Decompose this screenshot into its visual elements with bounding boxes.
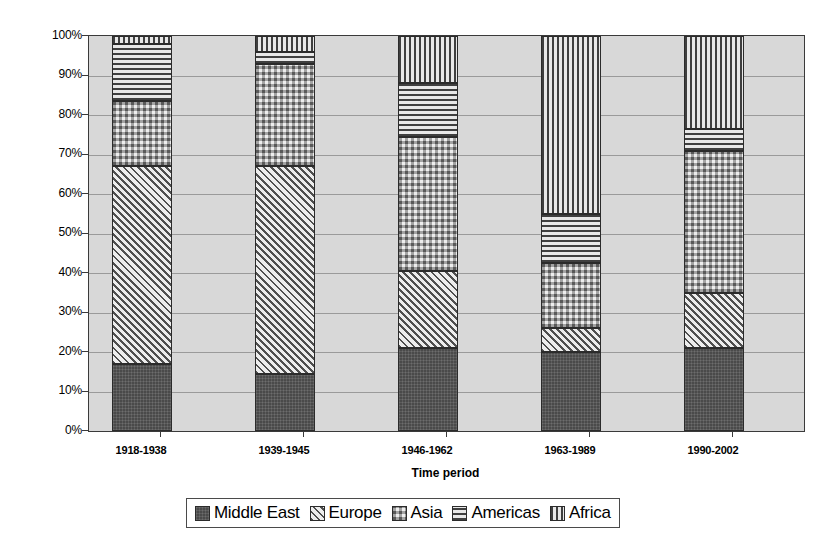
legend-entry-asia[interactable]: Asia	[392, 504, 443, 522]
segment-africa[interactable]	[112, 36, 172, 44]
y-tick-label-40: 40%	[36, 266, 82, 278]
bar-1990-2002[interactable]	[684, 36, 744, 431]
segment-americas[interactable]	[684, 129, 744, 151]
bar-1918-1938[interactable]	[112, 36, 172, 431]
bar-1946-1962[interactable]	[398, 36, 458, 431]
y-tick-label-70: 70%	[36, 147, 82, 159]
segment-europe[interactable]	[112, 166, 172, 364]
bar-1963-1989[interactable]	[541, 36, 601, 431]
legend-swatch-africa-icon	[550, 506, 565, 521]
segment-europe[interactable]	[541, 328, 601, 352]
bar-1939-1945[interactable]	[255, 36, 315, 431]
segment-middle-east[interactable]	[541, 352, 601, 431]
segment-asia[interactable]	[112, 101, 172, 166]
x-cat-label-1990-2002: 1990-2002	[653, 444, 773, 456]
y-tick-label-90: 90%	[36, 68, 82, 80]
y-tick-label-80: 80%	[36, 108, 82, 120]
segment-middle-east[interactable]	[684, 348, 744, 431]
segment-europe[interactable]	[398, 271, 458, 348]
legend-swatch-asia-icon	[392, 506, 407, 521]
segment-asia[interactable]	[541, 263, 601, 328]
legend-label-americas: Americas	[471, 504, 539, 522]
legend-label-africa: Africa	[569, 504, 611, 522]
y-tick-label-30: 30%	[36, 305, 82, 317]
x-tick-mark-3	[446, 431, 447, 437]
x-tick-mark-1	[160, 431, 161, 437]
segment-middle-east[interactable]	[112, 364, 172, 431]
segment-asia[interactable]	[398, 137, 458, 271]
legend-label-asia: Asia	[411, 504, 443, 522]
legend-entry-africa[interactable]: Africa	[550, 504, 611, 522]
x-tick-mark-4	[589, 431, 590, 437]
segment-africa[interactable]	[684, 36, 744, 129]
x-cat-label-1918-1938: 1918-1938	[81, 444, 201, 456]
x-axis-title: Time period	[88, 466, 803, 480]
y-tick-label-60: 60%	[36, 187, 82, 199]
legend-entry-middle-east[interactable]: Middle East	[195, 504, 300, 522]
x-cat-label-1946-1962: 1946-1962	[367, 444, 487, 456]
segment-asia[interactable]	[684, 151, 744, 293]
segment-americas[interactable]	[541, 214, 601, 263]
legend-label-europe: Europe	[329, 504, 382, 522]
legend-swatch-americas-icon	[452, 506, 467, 521]
x-tick-mark-2	[303, 431, 304, 437]
y-axis: 100% 90% 80% 70% 60% 50% 40% 30% 20% 10%…	[0, 0, 82, 547]
x-cat-label-1963-1989: 1963-1989	[510, 444, 630, 456]
y-tick-label-50: 50%	[36, 226, 82, 238]
segment-americas[interactable]	[112, 44, 172, 101]
plot-area	[88, 35, 805, 432]
segment-europe[interactable]	[684, 293, 744, 348]
segment-middle-east[interactable]	[255, 374, 315, 431]
segment-africa[interactable]	[255, 36, 315, 52]
x-tick-mark-5	[732, 431, 733, 437]
x-cat-label-1939-1945: 1939-1945	[224, 444, 344, 456]
segment-europe[interactable]	[255, 166, 315, 373]
legend-swatch-middle-east-icon	[195, 506, 210, 521]
segment-africa[interactable]	[398, 36, 458, 83]
legend-entry-europe[interactable]: Europe	[310, 504, 382, 522]
segment-americas[interactable]	[398, 83, 458, 136]
stacked-bar-chart: 100% 90% 80% 70% 60% 50% 40% 30% 20% 10%…	[0, 0, 830, 547]
y-tick-label-10: 10%	[36, 384, 82, 396]
y-tick-label-0: 0%	[36, 424, 82, 436]
legend: Middle East Europe Asia Americas Africa	[186, 498, 620, 528]
y-tick-label-100: 100%	[36, 29, 82, 41]
segment-africa[interactable]	[541, 36, 601, 214]
segment-asia[interactable]	[255, 64, 315, 167]
segment-americas[interactable]	[255, 52, 315, 64]
legend-swatch-europe-icon	[310, 506, 325, 521]
legend-entry-americas[interactable]: Americas	[452, 504, 539, 522]
y-tick-label-20: 20%	[36, 345, 82, 357]
legend-label-middle-east: Middle East	[214, 504, 300, 522]
segment-middle-east[interactable]	[398, 348, 458, 431]
